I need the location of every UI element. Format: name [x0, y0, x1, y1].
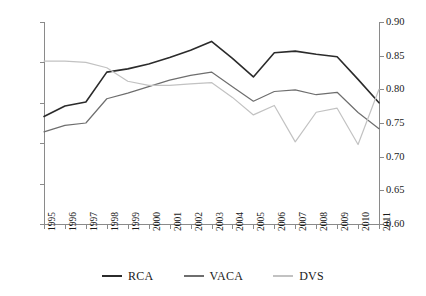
x-tick-mark: [128, 225, 129, 229]
legend-line-swatch: [184, 275, 204, 277]
x-tick-mark: [86, 225, 87, 229]
right-tick-label: 0.90: [386, 17, 426, 27]
right-tick-mark: [380, 56, 384, 57]
dual-axis-line-chart: 00.51.01.52.02.5 0.600.650.700.750.800.8…: [0, 0, 426, 296]
x-tick-mark: [191, 225, 192, 229]
x-tick-mark: [316, 225, 317, 229]
series-line-vaca: [44, 72, 379, 132]
right-tick-mark: [380, 89, 384, 90]
right-tick-label: 0.80: [386, 84, 426, 94]
x-tick-mark: [295, 225, 296, 229]
legend-line-swatch: [102, 275, 122, 277]
x-tick-mark: [65, 225, 66, 229]
right-tick-mark: [380, 22, 384, 23]
right-tick-mark: [380, 123, 384, 124]
right-tick-mark: [380, 190, 384, 191]
legend-item-dvs[interactable]: DVS: [273, 270, 324, 282]
legend-label: DVS: [299, 270, 324, 282]
legend-line-swatch: [273, 275, 293, 277]
x-tick-mark: [253, 225, 254, 229]
x-tick-mark: [212, 225, 213, 229]
right-tick-label: 0.65: [386, 185, 426, 195]
x-tick-label: 2011: [383, 212, 392, 231]
legend-label: VACA: [210, 270, 244, 282]
legend-label: RCA: [128, 270, 154, 282]
right-tick-mark: [380, 157, 384, 158]
x-tick-mark: [170, 225, 171, 229]
x-tick-mark: [379, 225, 380, 229]
x-tick-mark: [358, 225, 359, 229]
series-lines: [44, 22, 380, 225]
series-line-dvs: [44, 61, 379, 145]
right-tick-label: 0.75: [386, 118, 426, 128]
x-tick-mark: [149, 225, 150, 229]
legend-item-vaca[interactable]: VACA: [184, 270, 244, 282]
right-tick-label: 0.70: [386, 152, 426, 162]
right-tick-label: 0.85: [386, 51, 426, 61]
x-tick-mark: [232, 225, 233, 229]
x-tick-mark: [274, 225, 275, 229]
legend-item-rca[interactable]: RCA: [102, 270, 154, 282]
x-tick-mark: [107, 225, 108, 229]
x-tick-mark: [44, 225, 45, 229]
chart-legend: RCAVACADVS: [0, 268, 426, 284]
right-tick-label: 0.60: [386, 219, 426, 229]
plot-area: 00.51.01.52.02.5 0.600.650.700.750.800.8…: [44, 22, 380, 225]
x-tick-mark: [337, 225, 338, 229]
series-line-rca: [44, 41, 379, 116]
